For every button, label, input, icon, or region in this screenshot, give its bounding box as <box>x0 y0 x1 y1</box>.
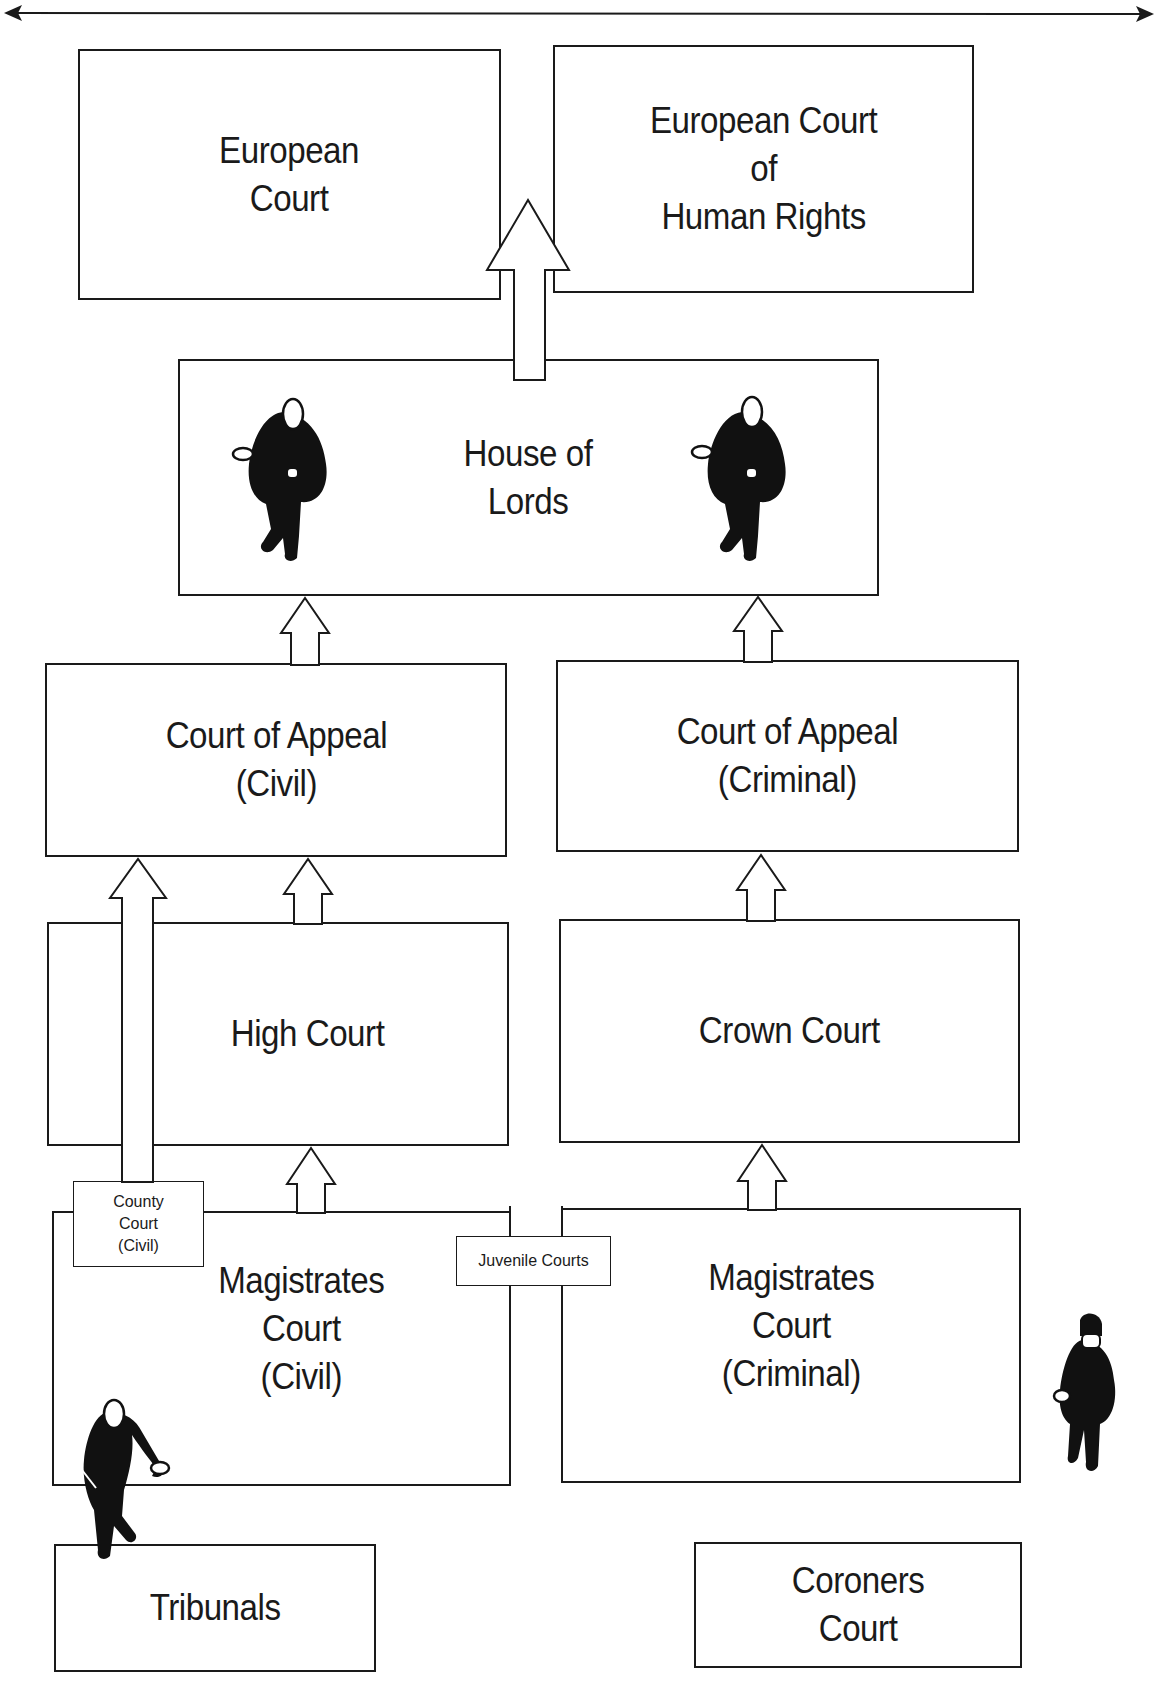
up-arrow-icon <box>737 855 785 921</box>
judge-figure-icon <box>233 399 327 561</box>
barrister-figure-icon <box>82 1400 169 1559</box>
up-arrow-icon <box>738 1145 786 1210</box>
up-arrow-icon <box>734 597 782 662</box>
double-headed-arrow-icon <box>4 5 1154 22</box>
up-arrow-icon <box>487 200 569 380</box>
up-arrow-icon <box>287 1148 335 1213</box>
police-officer-figure-icon <box>1054 1314 1115 1471</box>
up-arrow-icon <box>281 598 329 665</box>
diagram-overlay <box>0 0 1156 1691</box>
judge-figure-icon <box>692 397 786 561</box>
up-arrow-icon <box>284 859 332 924</box>
long-up-arrow-icon <box>110 859 166 1182</box>
